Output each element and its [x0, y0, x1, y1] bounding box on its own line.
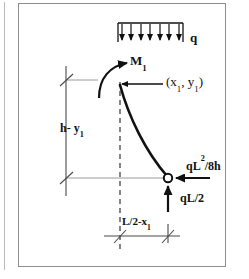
arch-free-body-diagram: q M1 (x1, y1) qL2/8h qL/2 h- y1 L/2-x1: [0, 0, 249, 279]
distributed-load: [118, 23, 183, 42]
label-horizontal-thrust: qL2/8h: [186, 160, 221, 172]
label-coordinate-point: (x1, y1): [166, 75, 203, 88]
arch-member: [120, 85, 167, 176]
label-moment: M1: [130, 54, 147, 67]
load-arrows: [122, 24, 179, 40]
label-distributed-load: q: [190, 31, 197, 44]
label-height-dimension: h- y1: [60, 122, 84, 134]
pin-support-circle: [164, 174, 172, 182]
diagram-canvas: [0, 0, 249, 279]
label-vertical-reaction: qL/2: [180, 192, 204, 204]
label-span-dimension: L/2-x1: [122, 216, 151, 227]
